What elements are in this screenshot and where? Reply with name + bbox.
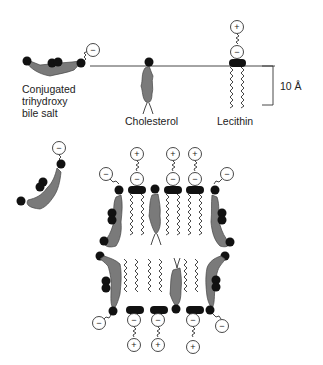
svg-text:−: − bbox=[131, 315, 136, 325]
label-scale: 10 Å bbox=[280, 80, 302, 92]
svg-text:−: − bbox=[190, 315, 195, 325]
micelle-cholesterol-upper bbox=[149, 185, 161, 246]
svg-text:+: + bbox=[131, 340, 136, 350]
svg-text:−: − bbox=[96, 318, 101, 328]
micelle-bile-salt-lower-right: − bbox=[206, 252, 230, 333]
negative-charge: − bbox=[90, 45, 95, 55]
micelle-lecithin-upper-2: + − bbox=[164, 148, 182, 236]
svg-text:+: + bbox=[170, 149, 175, 159]
svg-text:+: + bbox=[192, 149, 197, 159]
svg-text:+: + bbox=[155, 340, 160, 350]
bile-salt-molecule: − bbox=[23, 44, 100, 77]
micelle-lecithin-lower-3: − + bbox=[184, 259, 204, 354]
scale-bracket: 10 Å bbox=[262, 66, 302, 105]
svg-text:+: + bbox=[134, 149, 139, 159]
svg-text:−: − bbox=[155, 315, 160, 325]
micelle-bile-salt-upper-right: − bbox=[211, 168, 235, 247]
micelle-lecithin-upper-1: + − bbox=[128, 148, 146, 236]
mixed-micelle-diagram: − Conjugated trihydroxy bile salt Choles… bbox=[0, 0, 323, 365]
micelle-cholesterol-lower bbox=[170, 258, 181, 314]
free-bile-salt: − bbox=[17, 142, 66, 210]
svg-text:−: − bbox=[103, 169, 108, 179]
lecithin-molecule: + − bbox=[229, 21, 246, 109]
negative-charge: − bbox=[234, 47, 239, 57]
mixed-micelle: − + − + bbox=[93, 148, 235, 354]
svg-text:−: − bbox=[192, 174, 197, 184]
svg-text:+: + bbox=[190, 342, 195, 352]
label-lecithin: Lecithin bbox=[217, 115, 253, 127]
negative-charge: − bbox=[56, 143, 61, 153]
micelle-bile-salt-upper-left: − bbox=[100, 168, 124, 247]
label-cholesterol: Cholesterol bbox=[125, 115, 178, 127]
svg-text:−: − bbox=[224, 169, 229, 179]
svg-text:−: − bbox=[134, 174, 139, 184]
micelle-lecithin-lower-2: − + bbox=[148, 259, 168, 352]
micelle-lecithin-upper-3: + − bbox=[186, 148, 204, 236]
label-bile-salt: Conjugated trihydroxy bile salt bbox=[22, 83, 79, 119]
svg-text:−: − bbox=[170, 174, 175, 184]
micelle-bile-salt-lower-left: − bbox=[93, 252, 122, 330]
svg-text:−: − bbox=[219, 321, 224, 331]
micelle-lecithin-lower-1: − + bbox=[124, 259, 144, 352]
positive-charge: + bbox=[234, 22, 239, 32]
